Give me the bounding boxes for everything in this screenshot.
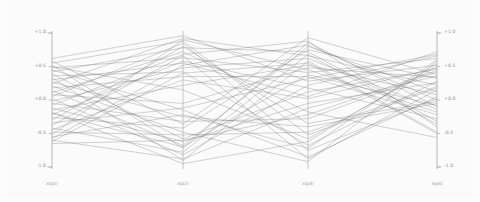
axis-tick-label: +0.5 <box>444 64 468 69</box>
axis-title-xp2: x(p2) <box>163 182 203 186</box>
axis-tick-label: -1.0 <box>444 164 468 169</box>
axis-title-xp3: x(p3) <box>288 182 328 186</box>
axis-tick-label: +0.0 <box>22 97 46 102</box>
plot-canvas <box>0 0 480 202</box>
axis-tick-label: -0.5 <box>444 131 468 136</box>
axis-tick-label: +0.0 <box>444 97 468 102</box>
series-line <box>52 38 437 85</box>
series-line <box>52 56 437 159</box>
axis-tick-label: +1.0 <box>444 30 468 35</box>
parallel-coordinates-figure: +1.0+0.5+0.0-0.5-1.0+1.0+0.5+0.0-0.5-1.0… <box>0 0 480 202</box>
axis-title-xp1: x(p1) <box>32 182 72 186</box>
series-line <box>52 61 437 160</box>
axis-tick-label: +1.0 <box>22 30 46 35</box>
axis-tick-label: -0.5 <box>22 131 46 136</box>
axis-tick-label: -1.0 <box>22 164 46 169</box>
axis-title-xp4: x(p4) <box>417 182 457 186</box>
series-line <box>52 56 437 155</box>
series-lines-layer <box>52 36 437 164</box>
axis-tick-label: +0.5 <box>22 64 46 69</box>
series-line <box>52 75 437 147</box>
